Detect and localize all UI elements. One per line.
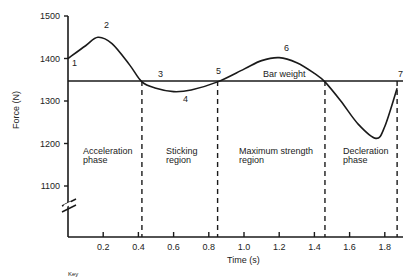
x-axis-ticks: 0.20.40.60.81.01.21.41.61.8 xyxy=(97,232,391,252)
x-tick-label: 1.4 xyxy=(308,242,321,252)
x-tick-label: 1.8 xyxy=(379,242,392,252)
point-label-3: 3 xyxy=(158,69,163,79)
region-labels: Acceleration phase Sticking region Maxim… xyxy=(83,146,389,165)
point-label-7: 7 xyxy=(398,69,403,79)
y-tick-label: 1200 xyxy=(40,139,60,149)
x-tick-label: 1.0 xyxy=(238,242,251,252)
x-tick-label: 0.6 xyxy=(167,242,180,252)
force-curve xyxy=(68,37,397,138)
x-tick-label: 0.8 xyxy=(203,242,216,252)
point-labels: 1 2 3 4 5 6 7 xyxy=(72,20,403,104)
x-tick-label: 1.6 xyxy=(343,242,356,252)
y-tick-label: 1500 xyxy=(40,11,60,21)
point-label-4: 4 xyxy=(183,94,188,104)
y-tick-label: 1100 xyxy=(41,181,60,191)
region-acceleration-line2: phase xyxy=(83,155,108,165)
point-label-5: 5 xyxy=(216,66,221,76)
key-label: Key xyxy=(68,271,78,277)
region-deceleration-line2: phase xyxy=(343,155,368,165)
point-label-1: 1 xyxy=(72,58,77,68)
x-tick-label: 0.4 xyxy=(132,242,145,252)
region-max-strength-line2: region xyxy=(239,155,264,165)
y-tick-label: 1400 xyxy=(40,54,60,64)
x-tick-label: 0.2 xyxy=(97,242,110,252)
region-sticking-line2: region xyxy=(166,155,191,165)
x-tick-label: 1.2 xyxy=(273,242,286,252)
bar-weight-label: Bar weight xyxy=(263,69,306,79)
point-label-6: 6 xyxy=(284,43,289,53)
force-time-chart: 11001200130014001500 0.20.40.60.81.01.21… xyxy=(0,0,411,277)
y-axis-title: Force (N) xyxy=(11,91,21,129)
point-label-2: 2 xyxy=(104,20,109,30)
y-axis-ticks: 11001200130014001500 xyxy=(40,11,68,191)
y-tick-label: 1300 xyxy=(40,96,60,106)
x-axis-title: Time (s) xyxy=(227,255,260,265)
